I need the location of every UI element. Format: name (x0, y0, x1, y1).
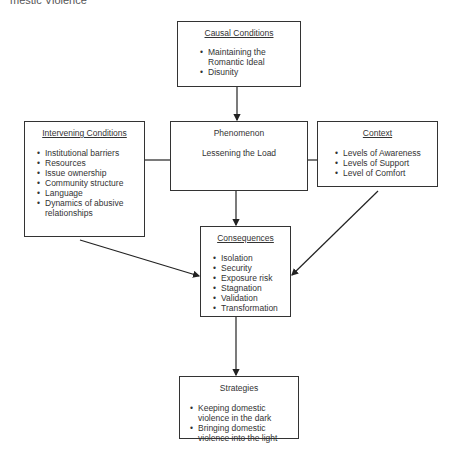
edge-context-consequences (292, 191, 378, 275)
list-item: Institutional barriers (37, 148, 144, 158)
list-item: Transformation (213, 303, 290, 313)
node-title: Context (318, 128, 437, 138)
node-title: Causal Conditions (178, 28, 300, 38)
node-title: Intervening Conditions (25, 128, 144, 138)
node-context: Context Levels of Awareness Levels of Su… (317, 121, 438, 187)
list-item: Maintaining the Romantic Ideal (200, 47, 300, 67)
list-item: Exposure risk (213, 273, 290, 283)
list-item: Community structure (37, 178, 144, 188)
node-consequences: Consequences Isolation Security Exposure… (200, 226, 291, 317)
node-intervening-conditions: Intervening Conditions Institutional bar… (24, 121, 145, 237)
list-item: Disunity (200, 67, 300, 77)
list-item: Resources (37, 158, 144, 168)
list-item: Level of Comfort (335, 168, 437, 178)
node-causal-conditions: Causal Conditions Maintaining the Romant… (177, 21, 301, 87)
node-phenomenon: Phenomenon Lessening the Load (170, 121, 308, 191)
list-item: Issue ownership (37, 168, 144, 178)
list-item: Security (213, 263, 290, 273)
edge-intervening-consequences (80, 240, 199, 276)
node-subtitle: Lessening the Load (171, 148, 307, 158)
list-item: Isolation (213, 253, 290, 263)
node-title: Phenomenon (171, 128, 307, 138)
list-item: Levels of Awareness (335, 148, 437, 158)
node-title: Consequences (201, 233, 290, 243)
list-item: Language (37, 188, 144, 198)
node-title: Strategies (180, 383, 298, 393)
node-strategies: Strategies Keeping domestic violence in … (179, 376, 299, 439)
list-item: Levels of Support (335, 158, 437, 168)
list-item: Bringing domestic violence into the ligh… (190, 423, 298, 443)
list-item: Stagnation (213, 283, 290, 293)
list-item: Keeping domestic violence in the dark (190, 403, 298, 423)
list-item: Validation (213, 293, 290, 303)
list-item: Dynamics of abusive relationships (37, 198, 144, 218)
